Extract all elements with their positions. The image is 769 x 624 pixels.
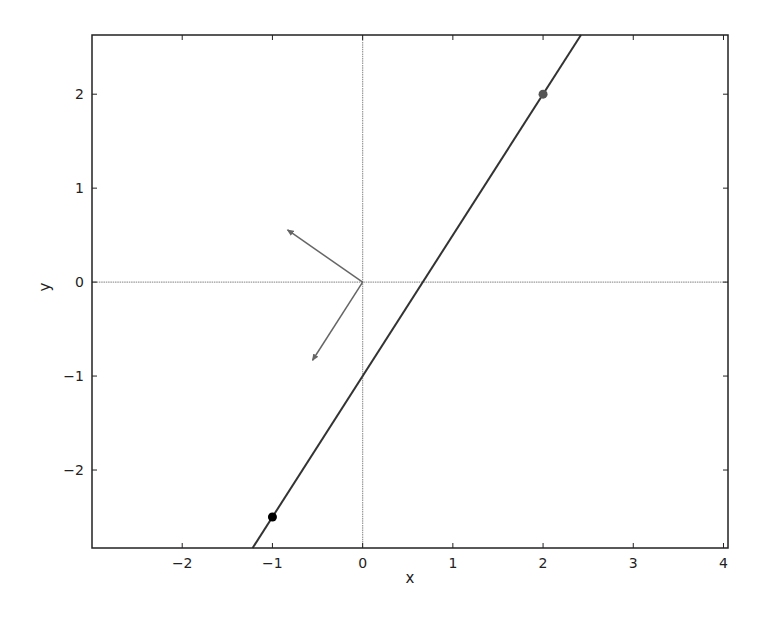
x-tick-label: −2 (172, 555, 193, 571)
y-tick-label: −2 (63, 462, 84, 478)
x-tick-label: 4 (719, 555, 728, 571)
y-tick-label: −1 (63, 368, 84, 384)
x-tick-label: −1 (262, 555, 283, 571)
y-tick-label: 2 (75, 86, 84, 102)
fitted-line (253, 35, 581, 548)
plot-area (92, 35, 728, 548)
y-tick-label: 0 (75, 274, 84, 290)
direction-vector-arrow (313, 282, 363, 360)
chart-figure: −2−101234−2−1012 x y (0, 0, 769, 624)
x-tick-label: 2 (539, 555, 548, 571)
point-b-marker (539, 90, 548, 99)
point-a-marker (268, 512, 277, 521)
x-tick-label: 3 (629, 555, 638, 571)
y-axis-label: y (36, 282, 54, 291)
axis-ticks: −2−101234−2−1012 (63, 35, 728, 571)
y-tick-label: 1 (75, 180, 84, 196)
x-axis-label: x (406, 569, 415, 587)
x-tick-label: 1 (448, 555, 457, 571)
normal-vector-arrow (288, 230, 363, 282)
plot-frame (92, 35, 728, 548)
x-tick-label: 0 (358, 555, 367, 571)
